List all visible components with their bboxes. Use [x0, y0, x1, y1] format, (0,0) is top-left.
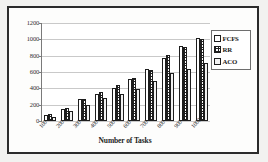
bar-aco: [120, 94, 124, 121]
legend-swatch-icon: [214, 35, 221, 42]
y-axis-tick-labels: 020040060080010001200: [17, 23, 39, 124]
y-axis-tick-label: 1200: [17, 20, 39, 26]
bar-group: [179, 23, 191, 121]
y-axis-tick-label: 200: [17, 102, 39, 108]
bar-group: [128, 23, 140, 121]
bar-aco: [136, 89, 140, 121]
chart-legend: FCFSRRACO: [211, 30, 251, 70]
bar-group: [78, 23, 90, 121]
legend-swatch-icon: [214, 46, 221, 53]
bar-group: [196, 23, 208, 121]
screenshot-frame: 020040060080010001200 100200300400500600…: [0, 0, 268, 162]
bar-aco: [204, 63, 208, 121]
bar-aco: [69, 111, 73, 121]
bar-aco: [153, 81, 157, 121]
legend-item: FCFS: [214, 35, 249, 42]
y-axis-tick-label: 400: [17, 85, 39, 91]
bar-aco: [187, 69, 191, 121]
bar-aco: [170, 73, 174, 121]
y-axis-tick-label: 800: [17, 53, 39, 59]
bar-group: [61, 23, 73, 121]
y-axis-tick-label: 1000: [17, 36, 39, 42]
y-axis-tick-label: 0: [17, 118, 39, 124]
x-axis-title: Number of Tasks: [41, 136, 209, 145]
bar-group: [44, 23, 56, 121]
legend-item: RR: [214, 46, 249, 53]
legend-item: ACO: [214, 58, 249, 65]
bar-aco: [103, 98, 107, 121]
bar-group: [162, 23, 174, 121]
legend-swatch-icon: [214, 58, 221, 65]
y-axis-tick-label: 600: [17, 69, 39, 75]
bar-groups: [42, 23, 210, 121]
bar-group: [95, 23, 107, 121]
bar-group: [145, 23, 157, 121]
legend-label: FCFS: [223, 35, 239, 42]
bar-group: [112, 23, 124, 121]
legend-label: ACO: [223, 58, 238, 65]
bar-aco: [86, 105, 90, 121]
bar-chart: 020040060080010001200 100200300400500600…: [11, 10, 255, 150]
plot-area: [41, 23, 210, 122]
legend-label: RR: [223, 46, 232, 53]
bar-aco: [52, 117, 56, 121]
